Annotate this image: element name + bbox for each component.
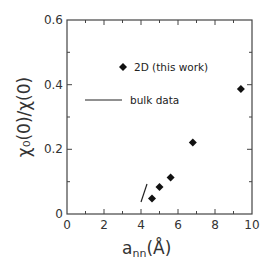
x-tick-label: 0 [63, 218, 71, 232]
y-tick-label: 0 [55, 207, 63, 221]
legend-2d-label: 2D (this work) [134, 61, 208, 73]
x-tick-label: 8 [211, 218, 219, 232]
y-tick-label: 0.6 [44, 13, 63, 27]
x-axis-title-main: a [122, 238, 132, 258]
legend-bulk-label: bulk data [130, 94, 179, 106]
y-tick-label: 0.4 [44, 78, 63, 92]
x-axis-title: ann(Å) [122, 237, 171, 260]
data-point [189, 139, 197, 147]
data-point [156, 183, 164, 191]
data-point [167, 174, 175, 182]
x-tick-label: 10 [244, 218, 259, 232]
y-axis-title: χ₀(0)/χ(0) [14, 77, 34, 157]
y-tick-label: 0.2 [44, 142, 63, 156]
legend-diamond-icon [119, 63, 127, 71]
chart: 0 2 4 6 8 10 0 0.2 0.4 0.6 χ₀(0)/χ(0) an… [0, 0, 270, 274]
x-axis-title-unit: (Å) [146, 237, 171, 258]
x-tick-label: 4 [137, 218, 145, 232]
x-tick-label: 6 [174, 218, 182, 232]
x-axis-title-sub: nn [132, 247, 146, 260]
data-point [237, 85, 245, 93]
x-tick-label: 2 [100, 218, 108, 232]
data-point [148, 195, 156, 203]
bulk-data-line [141, 184, 147, 202]
